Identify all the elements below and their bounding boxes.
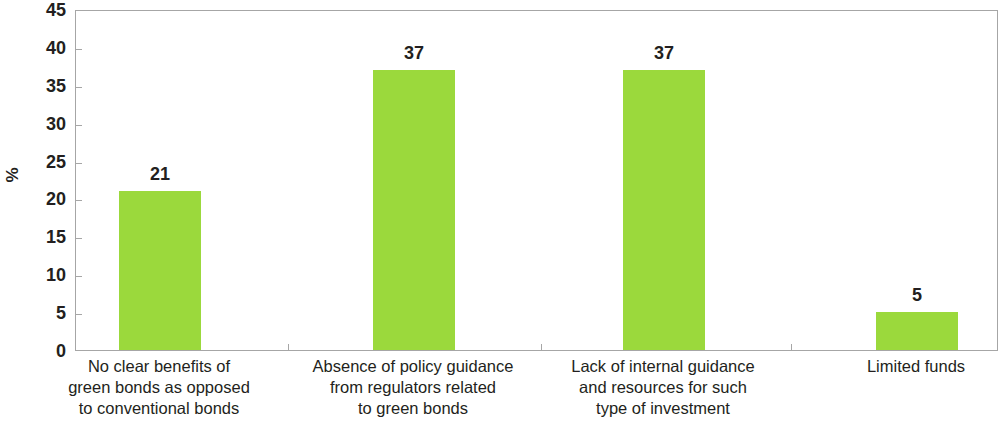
x-axis-category-label-line: and resources for such	[523, 377, 803, 398]
x-axis-category-label-line: from regulators related	[273, 377, 553, 398]
y-axis-tick-label: 15	[22, 228, 66, 246]
x-axis-category-label: No clear benefits ofgreen bonds as oppos…	[19, 356, 299, 419]
y-axis-tick-mark	[76, 276, 82, 277]
y-axis-tick-mark	[76, 49, 82, 50]
y-axis-tick-mark	[76, 163, 82, 164]
x-axis-category-label-line: Lack of internal guidance	[523, 356, 803, 377]
bar	[373, 70, 455, 350]
y-axis-tick-mark	[76, 238, 82, 239]
y-axis-tick-mark	[76, 87, 82, 88]
bar	[623, 70, 705, 350]
y-axis-tick-label: 35	[22, 77, 66, 95]
y-axis-tick-mark	[76, 200, 82, 201]
bar	[119, 191, 201, 350]
x-axis-category-label-line: Limited funds	[776, 356, 999, 377]
x-axis-category-label-line: Absence of policy guidance	[273, 356, 553, 377]
y-axis-tick-label: 5	[22, 304, 66, 322]
bar	[876, 312, 958, 350]
x-axis-category-label: Lack of internal guidanceand resources f…	[523, 356, 803, 419]
y-axis-tick-label: 10	[22, 266, 66, 284]
x-axis-tick-mark	[541, 344, 542, 350]
y-axis-tick-label: 45	[22, 1, 66, 19]
y-axis-tick-mark	[76, 314, 82, 315]
bar-value-label: 37	[623, 44, 705, 62]
y-axis-tick-label: 20	[22, 190, 66, 208]
y-axis-tick-label: 30	[22, 115, 66, 133]
y-axis-tick-label: 25	[22, 153, 66, 171]
x-axis-category-label-line: to green bonds	[273, 398, 553, 419]
x-axis-category-label: Limited funds	[776, 356, 999, 377]
bar-value-label: 21	[119, 165, 201, 183]
x-axis-tick-mark	[791, 344, 792, 350]
x-axis-category-label-line: to conventional bonds	[19, 398, 299, 419]
x-axis-tick-mark	[288, 344, 289, 350]
bar-value-label: 37	[373, 44, 455, 62]
y-axis-tick-mark	[76, 125, 82, 126]
bar-chart: % 454035302520151050 2137375 No clear be…	[0, 0, 999, 425]
x-axis-category-label: Absence of policy guidancefrom regulator…	[273, 356, 553, 419]
y-axis-tick-label: 40	[22, 39, 66, 57]
x-axis-category-labels: No clear benefits ofgreen bonds as oppos…	[75, 356, 998, 425]
x-axis-category-label-line: green bonds as opposed	[19, 377, 299, 398]
y-axis-title: %	[3, 164, 23, 186]
x-axis-category-label-line: No clear benefits of	[19, 356, 299, 377]
bar-value-label: 5	[876, 286, 958, 304]
x-axis-category-label-line: type of investment	[523, 398, 803, 419]
plot-area: 2137375	[75, 10, 998, 351]
